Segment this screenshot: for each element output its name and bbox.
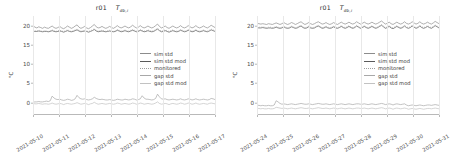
- gridline-vertical: [361, 16, 362, 115]
- x-tick-label: 2021-05-26: [291, 133, 320, 153]
- legend-swatch-icon: [140, 83, 151, 84]
- gridline-vertical: [439, 16, 440, 115]
- legend-item[interactable]: gap std mod: [364, 80, 411, 87]
- legend-swatch-icon: [364, 53, 375, 54]
- x-tick-mark: [111, 115, 112, 117]
- series-line: [33, 24, 215, 29]
- y-tick-label: 0: [250, 100, 254, 106]
- x-tick-label: 2021-05-24: [239, 133, 268, 153]
- gridline-vertical: [215, 16, 216, 115]
- plot-area-left: 051015202021-05-102021-05-112021-05-1220…: [33, 16, 215, 115]
- x-tick-label: 2021-05-10: [15, 133, 44, 153]
- legend-item[interactable]: monitored: [140, 65, 187, 72]
- legend-swatch-icon: [364, 61, 375, 62]
- chart-panel-right: r01Tdb,i °C 051015202021-05-242021-05-25…: [224, 0, 448, 149]
- x-tick-label: 2021-05-11: [41, 133, 70, 153]
- x-tick-mark: [257, 115, 258, 117]
- legend-item[interactable]: monitored: [364, 65, 411, 72]
- legend-right: sim stdsim std modmonitoredgap stdgap st…: [364, 50, 411, 87]
- x-tick-label: 2021-05-17: [197, 133, 226, 153]
- series-canvas-right: [257, 16, 439, 115]
- x-tick-label: 2021-05-30: [395, 133, 424, 153]
- gridline-vertical: [189, 16, 190, 115]
- y-tick-label: 5: [250, 80, 254, 86]
- x-tick-mark: [137, 115, 138, 117]
- gridline-vertical: [335, 16, 336, 115]
- legend-swatch-icon: [364, 68, 375, 69]
- y-tick-label: 0: [26, 100, 30, 106]
- legend-item-label: gap std: [378, 73, 397, 79]
- legend-item[interactable]: sim std: [140, 50, 187, 57]
- series-line: [33, 94, 215, 102]
- x-tick-label: 2021-05-28: [343, 133, 372, 153]
- x-tick-label: 2021-05-14: [119, 133, 148, 153]
- x-tick-mark: [59, 115, 60, 117]
- legend-item-label: sim std: [154, 51, 173, 57]
- legend-item-label: sim std: [378, 51, 397, 57]
- x-tick-label: 2021-05-15: [145, 133, 174, 153]
- x-tick-label: 2021-05-16: [171, 133, 200, 153]
- gridline-vertical: [309, 16, 310, 115]
- x-tick-mark: [413, 115, 414, 117]
- legend-item-label: gap std: [154, 73, 173, 79]
- series-canvas-left: [33, 16, 215, 115]
- page-title-left: r01Tdb,i: [0, 4, 224, 13]
- plot-area-right: 051015202021-05-242021-05-252021-05-2620…: [257, 16, 439, 115]
- y-tick-label: 5: [26, 80, 30, 86]
- series-line: [257, 21, 439, 24]
- y-tick-label: 20: [23, 23, 30, 29]
- gridline-vertical: [59, 16, 60, 115]
- legend-item-label: gap std mod: [154, 80, 187, 86]
- x-tick-label: 2021-05-25: [265, 133, 294, 153]
- x-tick-mark: [283, 115, 284, 117]
- legend-item-label: gap std mod: [378, 80, 411, 86]
- panel-title-text-left: r01: [96, 4, 107, 11]
- panel-title-text-right: r01: [320, 4, 331, 11]
- gridline-vertical: [257, 16, 258, 115]
- legend-item-label: monitored: [154, 65, 181, 71]
- gridline-vertical: [137, 16, 138, 115]
- legend-item[interactable]: gap std mod: [140, 80, 187, 87]
- legend-swatch-icon: [364, 75, 375, 76]
- series-line: [257, 107, 439, 109]
- x-tick-label: 2021-05-31: [421, 133, 450, 153]
- y-tick-label: 15: [247, 42, 254, 48]
- legend-item[interactable]: sim std mod: [140, 57, 187, 64]
- y-tick-label: 10: [247, 61, 254, 67]
- x-tick-label: 2021-05-13: [93, 133, 122, 153]
- legend-item[interactable]: gap std: [364, 72, 411, 79]
- legend-swatch-icon: [140, 53, 151, 54]
- legend-item-label: sim std mod: [154, 58, 186, 64]
- x-tick-mark: [361, 115, 362, 117]
- legend-item-label: monitored: [378, 65, 405, 71]
- x-tick-mark: [189, 115, 190, 117]
- y-tick-label: 20: [247, 23, 254, 29]
- legend-left: sim stdsim std modmonitoredgap stdgap st…: [140, 50, 187, 87]
- x-tick-mark: [439, 115, 440, 117]
- panel-title-subscript-right: db,i: [344, 8, 352, 13]
- x-tick-mark: [335, 115, 336, 117]
- legend-item[interactable]: sim std mod: [364, 57, 411, 64]
- x-tick-mark: [33, 115, 34, 117]
- x-tick-mark: [387, 115, 388, 117]
- x-tick-mark: [85, 115, 86, 117]
- x-tick-mark: [309, 115, 310, 117]
- page-title-right: r01Tdb,i: [224, 4, 448, 13]
- gridline-vertical: [33, 16, 34, 115]
- x-tick-label: 2021-05-27: [317, 133, 346, 153]
- legend-swatch-icon: [364, 83, 375, 84]
- legend-swatch-icon: [140, 75, 151, 76]
- legend-item[interactable]: sim std: [364, 50, 411, 57]
- x-tick-label: 2021-05-12: [67, 133, 96, 153]
- gridline-vertical: [413, 16, 414, 115]
- legend-item-label: sim std mod: [378, 58, 410, 64]
- gridline-vertical: [85, 16, 86, 115]
- legend-swatch-icon: [140, 61, 151, 62]
- x-tick-mark: [215, 115, 216, 117]
- legend-swatch-icon: [140, 68, 151, 69]
- chart-panel-left: r01Tdb,i °C 051015202021-05-102021-05-11…: [0, 0, 224, 149]
- gridline-vertical: [283, 16, 284, 115]
- legend-item[interactable]: gap std: [140, 72, 187, 79]
- series-line: [33, 102, 215, 105]
